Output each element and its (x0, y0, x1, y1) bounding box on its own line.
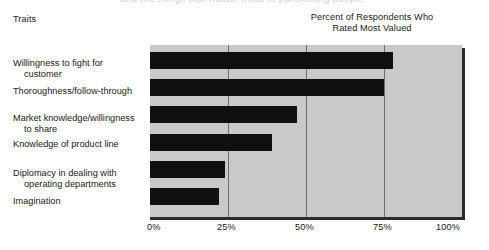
category-label: Thoroughness/follow-through (13, 86, 145, 97)
bar-row (150, 79, 384, 96)
gridline-50 (306, 45, 307, 217)
x-tick-label: 50% (295, 222, 314, 232)
bar (150, 106, 297, 123)
value-axis-heading-line2: Rated Most Valued (286, 23, 458, 34)
gridline-75 (384, 45, 385, 217)
bar (150, 134, 272, 151)
category-label: Willingness to fight forcustomer (13, 58, 145, 79)
category-label-line: Knowledge of product line (13, 139, 145, 150)
bar (150, 161, 225, 178)
category-label-line: Imagination (13, 196, 145, 207)
category-label-line: Market knowledge/willingness (13, 113, 145, 124)
category-label-line: to share (13, 124, 145, 135)
traits-axis-heading: Traits (13, 14, 36, 24)
bar-row (150, 52, 393, 69)
bar-row (150, 106, 297, 123)
bar (150, 52, 393, 69)
category-label: Market knowledge/willingnessto share (13, 113, 145, 134)
category-label-line: customer (13, 69, 145, 80)
gridline-25 (228, 45, 229, 217)
x-tick-label: 75% (373, 222, 392, 232)
category-label-line: Willingness to fight for (13, 58, 145, 69)
category-label: Imagination (13, 196, 145, 207)
x-tick-label: 25% (217, 222, 236, 232)
category-label-line: Diplomacy in dealing with (13, 168, 145, 179)
x-tick-label: 0% (147, 222, 160, 232)
value-axis-heading: Percent of Respondents Who Rated Most Va… (286, 12, 458, 34)
value-axis-heading-line1: Percent of Respondents Who (286, 12, 458, 23)
category-label-line: Thoroughness/follow-through (13, 86, 145, 97)
page-bleed-text: and the things that matter most to purch… (120, 0, 370, 4)
x-tick-label: 100% (436, 222, 460, 232)
bar-row (150, 161, 225, 178)
bar-row (150, 134, 272, 151)
category-label: Knowledge of product line (13, 139, 145, 150)
bar-row (150, 188, 219, 205)
plot-area (150, 45, 462, 217)
x-axis-line (150, 217, 465, 220)
category-label: Diplomacy in dealing withoperating depar… (13, 168, 145, 189)
chart-figure: and the things that matter most to purch… (0, 0, 489, 250)
category-label-line: operating departments (13, 179, 145, 190)
bar (150, 188, 219, 205)
bar (150, 79, 384, 96)
